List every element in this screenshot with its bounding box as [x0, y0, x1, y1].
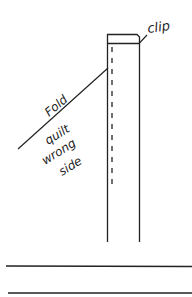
clip-leader: [140, 35, 148, 43]
binding-diagram: clip Fold quilt wrong side: [0, 0, 192, 297]
clip-label: clip: [146, 18, 170, 36]
horizontal-line-upper: [6, 266, 192, 267]
diagram-svg: clip Fold quilt wrong side: [0, 0, 192, 297]
